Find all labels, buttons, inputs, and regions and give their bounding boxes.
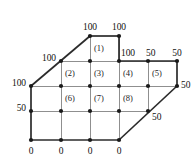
upper-left-100: 100 [42, 53, 56, 63]
bottom-0-d: 0 [117, 146, 122, 156]
grid-node [29, 138, 33, 142]
grid-node [59, 109, 63, 113]
cell-4: (4) [123, 69, 133, 78]
row1-100: 100 [121, 48, 135, 58]
bottom-0-c: 0 [88, 146, 93, 156]
node-layer [29, 34, 179, 142]
grid-node [117, 59, 121, 63]
grid-node [117, 138, 121, 142]
grid-node [146, 84, 150, 88]
cell-6: (6) [65, 94, 75, 103]
grid-node [59, 59, 63, 63]
grid-node [88, 59, 92, 63]
top-left-100: 100 [83, 22, 97, 32]
bottom-0-a: 0 [29, 146, 34, 156]
grid-node [29, 109, 33, 113]
cell-7: (7) [94, 94, 104, 103]
grid-node [59, 84, 63, 88]
grid-node [117, 84, 121, 88]
grid-node [59, 138, 63, 142]
cell-5: (5) [152, 69, 162, 78]
bottom-0-b: 0 [59, 146, 64, 156]
cell-2: (2) [65, 69, 75, 78]
cell-3: (3) [94, 69, 104, 78]
grid-node [88, 84, 92, 88]
grid-node [146, 109, 150, 113]
row1-right-50: 50 [172, 48, 181, 58]
cell-8: (8) [123, 94, 133, 103]
grid-diagram [0, 0, 196, 163]
diagonal-50: 50 [152, 112, 161, 122]
grid-node [88, 109, 92, 113]
left-100: 100 [12, 78, 26, 88]
row1-50: 50 [146, 48, 155, 58]
grid-node [88, 34, 92, 38]
right-50: 50 [181, 80, 190, 90]
grid-node [175, 84, 179, 88]
grid-node [175, 59, 179, 63]
grid-node [29, 84, 33, 88]
cell-1: (1) [94, 44, 104, 53]
left-50: 50 [17, 103, 26, 113]
grid-node [117, 109, 121, 113]
top-right-100: 100 [112, 22, 126, 32]
grid-node [117, 34, 121, 38]
grid-node [146, 59, 150, 63]
grid-node [88, 138, 92, 142]
